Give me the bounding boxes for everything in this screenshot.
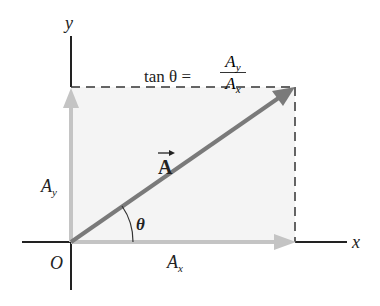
fraction-bar (220, 72, 246, 73)
numerator-sub: y (236, 61, 241, 73)
equation-lhs: tan θ = (144, 68, 191, 85)
x-axis-label: x (352, 233, 360, 251)
ay-label: Ay (41, 177, 57, 195)
ay-label-main: A (41, 176, 52, 196)
ax-label: Ax (167, 253, 183, 271)
denominator-main: A (225, 74, 235, 93)
equation-fraction: Ay Ax (220, 53, 246, 92)
fraction-denominator: Ax (225, 75, 240, 92)
origin-label: O (50, 254, 63, 272)
ax-label-main: A (167, 252, 178, 272)
vector-components-diagram: y x O A θ Ay Ax tan θ = Ay Ax (0, 0, 380, 306)
fraction-numerator: Ay (225, 53, 240, 70)
numerator-main: A (225, 52, 235, 71)
y-axis-label: y (65, 14, 73, 32)
denominator-sub: x (236, 83, 241, 95)
angle-theta-label: θ (136, 216, 145, 233)
vector-a-label: A (158, 157, 172, 177)
ax-label-sub: x (178, 262, 183, 274)
ay-label-sub: y (52, 186, 57, 198)
